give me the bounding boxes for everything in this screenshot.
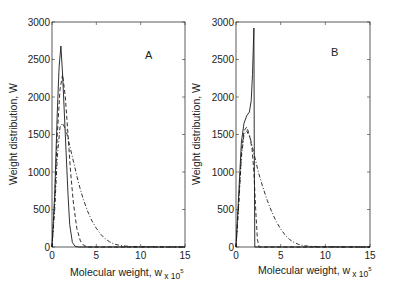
series-line-dashed	[236, 127, 370, 247]
plot-frame-a	[52, 22, 185, 247]
chart-figure: 050010001500200025003000 051015 A Weight…	[0, 0, 394, 292]
series-line-dashed	[52, 75, 185, 248]
x-axis-multiplier-b: x 10	[352, 269, 368, 279]
series-b	[236, 28, 370, 247]
x-axis-label-text-b: Molecular weight, w	[258, 264, 351, 276]
x-axis-label-text-a: Molecular weight, w	[70, 266, 163, 278]
y-tick-label: 2000	[212, 92, 235, 103]
x-tick-label: 0	[233, 250, 239, 261]
x-tick-label: 15	[364, 250, 376, 261]
x-axis-label-b: Molecular weight, wx 105	[258, 264, 372, 279]
y-tick-label: 2000	[28, 92, 51, 103]
y-tick-label: 1000	[212, 167, 235, 178]
panel-a: 050010001500200025003000 051015 A Weight…	[7, 17, 191, 282]
y-axis-label-b: Weight distribution, W	[190, 83, 202, 185]
x-axis-multiplier-exp-b: 5	[368, 266, 372, 272]
x-tick-label: 10	[135, 250, 147, 261]
panel-b: 050010001500200025003000 051015 B Weight…	[190, 17, 376, 280]
x-tick-label: 10	[320, 250, 332, 261]
y-tick-label: 2500	[212, 54, 235, 65]
x-axis-multiplier-a: x 10	[164, 271, 180, 281]
y-tick-label: 1000	[28, 167, 51, 178]
series-line-dash-dot	[52, 123, 185, 247]
x-tick-label: 5	[278, 250, 284, 261]
y-tick-label: 3000	[28, 17, 51, 28]
y-tick-label: 1500	[28, 129, 51, 140]
x-tick-label: 0	[49, 250, 55, 261]
panel-annotation-b: B	[331, 46, 338, 58]
panel-annotation-a: A	[145, 49, 153, 61]
series-a	[52, 46, 185, 247]
y-ticks-a: 050010001500200025003000	[28, 17, 185, 253]
x-tick-label: 5	[94, 250, 100, 261]
x-tick-label: 15	[179, 250, 191, 261]
y-tick-label: 500	[217, 204, 234, 215]
y-tick-label: 3000	[212, 17, 235, 28]
y-axis-label-a: Weight distribution, W	[7, 83, 19, 185]
series-line-solid	[52, 46, 185, 247]
series-line-dash-dot	[236, 131, 370, 247]
y-tick-label: 500	[33, 204, 50, 215]
x-axis-label-a: Molecular weight, wx 105	[70, 266, 184, 281]
y-ticks-b: 050010001500200025003000	[212, 17, 370, 253]
y-tick-label: 2500	[28, 54, 51, 65]
y-tick-label: 1500	[212, 129, 235, 140]
x-ticks-a: 051015	[49, 22, 191, 261]
x-axis-multiplier-exp-a: 5	[180, 268, 184, 274]
